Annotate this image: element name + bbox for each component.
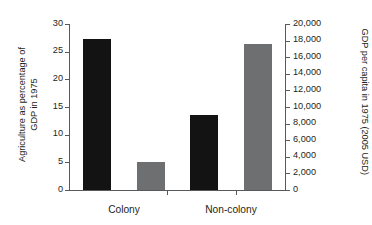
y-left-tick-mark [65, 24, 69, 25]
x-axis-tick-mark [167, 191, 168, 195]
y-right-tick-mark [286, 157, 290, 158]
y-right-tick-label: 12,000 [293, 84, 353, 94]
y-left-tick-label: 5 [3, 156, 63, 166]
bar-non-colony-gdp [244, 44, 272, 190]
y-right-tick-label: 8,000 [293, 117, 353, 127]
y-right-tick-label: 4,000 [293, 150, 353, 160]
plot-area: 051015202530 02,0004,0006,0008,00010,000… [70, 24, 285, 190]
y-right-tick-mark [286, 74, 290, 75]
y-right-tick-mark [286, 190, 290, 191]
y-left-tick-mark [65, 135, 69, 136]
y-left-tick-label: 20 [3, 73, 63, 83]
y-right-tick-label: 16,000 [293, 51, 353, 61]
y-left-tick-mark [65, 190, 69, 191]
y-right-tick-label: 14,000 [293, 67, 353, 77]
x-axis-category-label-colony: Colony [108, 204, 140, 215]
bar-colony-agriculture [83, 39, 111, 190]
x-axis-tick-mark [236, 191, 237, 195]
y-left-tick-mark [65, 107, 69, 108]
bar-colony-gdp [137, 162, 165, 190]
y-left-tick-label: 25 [3, 45, 63, 55]
y-left-tick-mark [65, 52, 69, 53]
x-axis-category-label-non-colony: Non-colony [205, 204, 257, 215]
y-right-tick-label: 10,000 [293, 101, 353, 111]
y-right-tick-label: 0 [293, 184, 353, 194]
y-right-tick-mark [286, 124, 290, 125]
y-right-tick-mark [286, 41, 290, 42]
y-left-tick-label: 0 [3, 184, 63, 194]
y-axis-left-spine [69, 24, 70, 191]
y-axis-right-title: GDP per capita in 1975 (2005 USD) [358, 17, 370, 187]
y-left-tick-mark [65, 79, 69, 80]
bar-non-colony-agriculture [190, 115, 218, 190]
y-right-tick-mark [286, 57, 290, 58]
x-axis-spine [69, 190, 286, 191]
y-right-tick-mark [286, 90, 290, 91]
y-left-tick-label: 15 [3, 101, 63, 111]
y-right-tick-mark [286, 140, 290, 141]
y-left-tick-mark [65, 162, 69, 163]
y-right-tick-label: 18,000 [293, 34, 353, 44]
y-left-tick-label: 10 [3, 128, 63, 138]
y-right-tick-mark [286, 24, 290, 25]
y-right-tick-mark [286, 107, 290, 108]
y-right-tick-label: 6,000 [293, 134, 353, 144]
y-right-tick-mark [286, 173, 290, 174]
y-right-tick-label: 2,000 [293, 167, 353, 177]
y-left-tick-label: 30 [3, 18, 63, 28]
y-right-tick-label: 20,000 [293, 18, 353, 28]
bar-chart-figure: Agriculture as percentage of GDP in 1975… [0, 0, 372, 225]
